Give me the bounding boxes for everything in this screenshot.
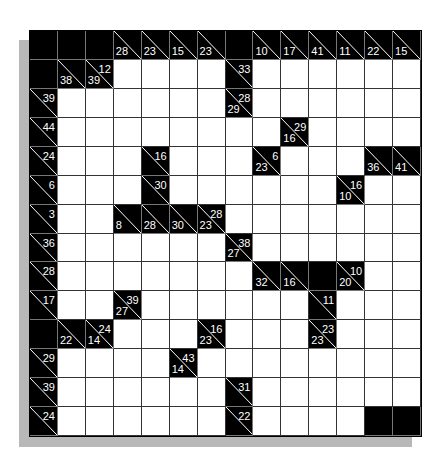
entry-cell[interactable]: [281, 89, 309, 118]
entry-cell[interactable]: [58, 89, 86, 118]
entry-cell[interactable]: [365, 234, 393, 263]
entry-cell[interactable]: [114, 118, 142, 147]
entry-cell[interactable]: [337, 349, 365, 378]
entry-cell[interactable]: [253, 234, 281, 263]
entry-cell[interactable]: [253, 320, 281, 349]
entry-cell[interactable]: [337, 147, 365, 176]
entry-cell[interactable]: [253, 118, 281, 147]
entry-cell[interactable]: [309, 147, 337, 176]
entry-cell[interactable]: [170, 176, 198, 205]
entry-cell[interactable]: [114, 176, 142, 205]
entry-cell[interactable]: [226, 118, 254, 147]
entry-cell[interactable]: [198, 89, 226, 118]
entry-cell[interactable]: [114, 378, 142, 407]
entry-cell[interactable]: [114, 349, 142, 378]
entry-cell[interactable]: [142, 262, 170, 291]
entry-cell[interactable]: [114, 234, 142, 263]
entry-cell[interactable]: [86, 205, 114, 234]
entry-cell[interactable]: [198, 147, 226, 176]
entry-cell[interactable]: [58, 349, 86, 378]
entry-cell[interactable]: [309, 205, 337, 234]
entry-cell[interactable]: [337, 320, 365, 349]
entry-cell[interactable]: [142, 291, 170, 320]
entry-cell[interactable]: [337, 234, 365, 263]
entry-cell[interactable]: [86, 234, 114, 263]
entry-cell[interactable]: [281, 407, 309, 436]
entry-cell[interactable]: [253, 349, 281, 378]
entry-cell[interactable]: [58, 234, 86, 263]
entry-cell[interactable]: [309, 378, 337, 407]
entry-cell[interactable]: [393, 349, 421, 378]
entry-cell[interactable]: [393, 205, 421, 234]
entry-cell[interactable]: [86, 118, 114, 147]
entry-cell[interactable]: [86, 176, 114, 205]
entry-cell[interactable]: [86, 349, 114, 378]
entry-cell[interactable]: [170, 234, 198, 263]
entry-cell[interactable]: [170, 291, 198, 320]
entry-cell[interactable]: [86, 147, 114, 176]
entry-cell[interactable]: [337, 205, 365, 234]
entry-cell[interactable]: [198, 118, 226, 147]
entry-cell[interactable]: [365, 378, 393, 407]
entry-cell[interactable]: [226, 147, 254, 176]
entry-cell[interactable]: [309, 234, 337, 263]
entry-cell[interactable]: [114, 407, 142, 436]
entry-cell[interactable]: [253, 291, 281, 320]
entry-cell[interactable]: [365, 89, 393, 118]
entry-cell[interactable]: [86, 89, 114, 118]
entry-cell[interactable]: [170, 89, 198, 118]
entry-cell[interactable]: [142, 378, 170, 407]
entry-cell[interactable]: [393, 291, 421, 320]
entry-cell[interactable]: [142, 349, 170, 378]
entry-cell[interactable]: [253, 176, 281, 205]
entry-cell[interactable]: [365, 205, 393, 234]
entry-cell[interactable]: [198, 60, 226, 89]
entry-cell[interactable]: [393, 176, 421, 205]
entry-cell[interactable]: [170, 407, 198, 436]
entry-cell[interactable]: [393, 378, 421, 407]
entry-cell[interactable]: [86, 378, 114, 407]
entry-cell[interactable]: [309, 349, 337, 378]
entry-cell[interactable]: [142, 89, 170, 118]
entry-cell[interactable]: [393, 60, 421, 89]
entry-cell[interactable]: [226, 349, 254, 378]
entry-cell[interactable]: [226, 176, 254, 205]
entry-cell[interactable]: [170, 147, 198, 176]
entry-cell[interactable]: [58, 176, 86, 205]
entry-cell[interactable]: [198, 407, 226, 436]
entry-cell[interactable]: [393, 262, 421, 291]
entry-cell[interactable]: [226, 262, 254, 291]
entry-cell[interactable]: [114, 147, 142, 176]
entry-cell[interactable]: [114, 320, 142, 349]
entry-cell[interactable]: [365, 262, 393, 291]
entry-cell[interactable]: [58, 407, 86, 436]
entry-cell[interactable]: [170, 262, 198, 291]
entry-cell[interactable]: [58, 378, 86, 407]
entry-cell[interactable]: [253, 407, 281, 436]
entry-cell[interactable]: [281, 234, 309, 263]
entry-cell[interactable]: [198, 176, 226, 205]
entry-cell[interactable]: [58, 291, 86, 320]
entry-cell[interactable]: [365, 320, 393, 349]
entry-cell[interactable]: [58, 205, 86, 234]
entry-cell[interactable]: [309, 118, 337, 147]
entry-cell[interactable]: [281, 320, 309, 349]
entry-cell[interactable]: [114, 89, 142, 118]
entry-cell[interactable]: [309, 407, 337, 436]
entry-cell[interactable]: [170, 118, 198, 147]
entry-cell[interactable]: [86, 291, 114, 320]
entry-cell[interactable]: [198, 378, 226, 407]
entry-cell[interactable]: [114, 262, 142, 291]
entry-cell[interactable]: [86, 262, 114, 291]
entry-cell[interactable]: [142, 118, 170, 147]
entry-cell[interactable]: [281, 147, 309, 176]
entry-cell[interactable]: [281, 378, 309, 407]
entry-cell[interactable]: [86, 407, 114, 436]
entry-cell[interactable]: [253, 60, 281, 89]
entry-cell[interactable]: [253, 378, 281, 407]
entry-cell[interactable]: [337, 60, 365, 89]
entry-cell[interactable]: [58, 262, 86, 291]
entry-cell[interactable]: [337, 89, 365, 118]
entry-cell[interactable]: [226, 291, 254, 320]
entry-cell[interactable]: [58, 118, 86, 147]
